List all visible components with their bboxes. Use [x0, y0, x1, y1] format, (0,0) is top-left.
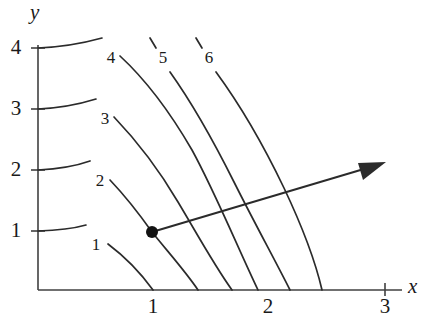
contour-curves-group	[38, 38, 322, 290]
contour-curve-2-segment-a	[38, 161, 90, 170]
contour-label-2: 2	[92, 172, 108, 189]
contour-curve-3-segment-a	[38, 99, 96, 109]
gradient-arrow-shaft	[152, 166, 374, 232]
contour-curve-6-segment-a	[196, 38, 202, 48]
gradient-arrow-group	[152, 162, 386, 232]
gradient-arrow-head	[358, 162, 386, 180]
y-axis-label: y	[30, 2, 39, 23]
contour-curve-4-segment-a	[38, 38, 102, 48]
contour-label-5: 5	[155, 49, 171, 66]
contour-curve-1-segment-a	[38, 225, 86, 231]
contour-curve-6-segment-b	[216, 72, 322, 290]
contour-curve-4-segment-b	[120, 56, 258, 290]
x-axis-label: x	[408, 276, 417, 297]
contour-label-1: 1	[88, 236, 104, 253]
contour-curve-5-segment-a	[150, 38, 156, 48]
contour-label-6: 6	[201, 49, 217, 66]
tick-marks-group	[31, 48, 385, 296]
y-tick-label-4: 4	[6, 37, 26, 58]
y-tick-label-3: 3	[6, 98, 26, 119]
contour-label-4: 4	[103, 49, 119, 66]
contour-plot-figure: y x 4 3 2 1 1 2 3 1 2 3 4 5 6	[0, 0, 433, 327]
y-tick-label-1: 1	[6, 220, 26, 241]
marked-point-dot	[146, 226, 158, 238]
y-tick-label-2: 2	[6, 159, 26, 180]
contour-curve-1-segment-b	[108, 244, 153, 290]
contour-label-3: 3	[97, 110, 113, 127]
x-tick-label-2: 2	[258, 296, 278, 317]
x-tick-label-1: 1	[143, 296, 163, 317]
contour-curve-5-segment-b	[170, 72, 290, 290]
x-tick-label-3: 3	[375, 296, 395, 317]
